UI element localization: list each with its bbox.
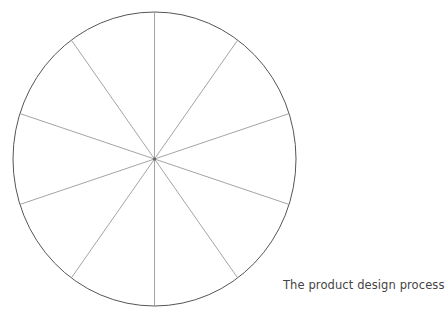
wheel-spoke: [71, 40, 154, 159]
wheel-spoke: [71, 159, 154, 278]
wheel-hub: [153, 157, 156, 160]
wheel-spoke: [155, 114, 290, 159]
diagram-caption: The product design process: [283, 278, 445, 292]
wheel-spoke: [20, 159, 155, 204]
wheel-spoke: [20, 114, 155, 159]
wheel-spoke: [155, 40, 238, 159]
wheel-spoke: [155, 159, 290, 204]
wheel-spoke: [155, 159, 238, 278]
